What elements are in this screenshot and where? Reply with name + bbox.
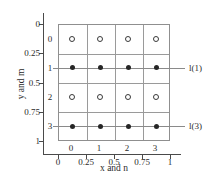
scan-line-label: l(1)	[189, 63, 202, 73]
grid-col-label: 2	[113, 143, 141, 153]
grid-col-label: 3	[141, 143, 169, 153]
filled-circle-marker	[98, 65, 103, 70]
y-axis-label: y and m	[16, 69, 27, 100]
y-tick-label: 0.25	[8, 48, 40, 58]
x-tick-label: 0	[44, 157, 72, 167]
grid-line-horizontal	[59, 83, 169, 84]
y-tick-label: 1	[8, 136, 40, 146]
filled-circle-marker	[126, 65, 131, 70]
grid-row-label: 0	[45, 34, 55, 44]
x-tick-label: 1	[156, 157, 184, 167]
filled-circle-marker	[126, 124, 131, 129]
filled-circle-marker	[154, 124, 159, 129]
x-axis-line	[43, 154, 181, 155]
grid-col-label: 1	[85, 143, 113, 153]
sampling-grid-figure: 00.250.50.75100.250.50.75101230123l(1)l(…	[0, 0, 207, 188]
y-axis-line	[43, 13, 44, 155]
grid-line-horizontal	[59, 54, 169, 55]
scan-line-label: l(3)	[189, 121, 202, 131]
grid-box	[58, 24, 170, 141]
filled-circle-marker	[70, 124, 75, 129]
x-axis-label: x and n	[70, 163, 158, 174]
filled-circle-marker	[154, 65, 159, 70]
y-tick-label: 0	[8, 19, 40, 29]
filled-circle-marker	[70, 65, 75, 70]
open-circle-marker	[97, 36, 103, 42]
y-tick-label: 0.75	[8, 107, 40, 117]
open-circle-marker	[69, 36, 75, 42]
open-circle-marker	[125, 36, 131, 42]
filled-circle-marker	[98, 124, 103, 129]
grid-row-label: 2	[45, 92, 55, 102]
grid-col-label: 0	[57, 143, 85, 153]
grid-line-horizontal	[59, 112, 169, 113]
open-circle-marker	[153, 36, 159, 42]
